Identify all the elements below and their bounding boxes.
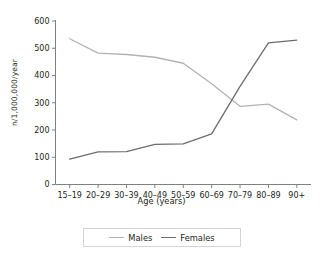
y-tick-label: 400 bbox=[34, 71, 49, 80]
y-tick-label: 300 bbox=[34, 99, 49, 108]
y-tick-label: 100 bbox=[34, 153, 49, 162]
legend-swatch-males bbox=[109, 237, 124, 238]
y-tick-label: 200 bbox=[34, 126, 49, 135]
series-lines bbox=[70, 39, 297, 159]
line-chart-svg: 0100200300400500600 15–1920–2930–3940–49… bbox=[0, 0, 323, 215]
legend-swatch-females bbox=[161, 237, 176, 238]
y-axis-ticks: 0100200300400500600 bbox=[34, 17, 55, 190]
x-axis-title: Age (years) bbox=[0, 196, 323, 206]
y-tick-label: 0 bbox=[44, 180, 49, 189]
legend-label-females: Females bbox=[180, 233, 214, 243]
y-tick-label: 500 bbox=[34, 44, 49, 53]
y-tick-label: 600 bbox=[34, 17, 49, 26]
y-axis-title: n/1,000,000/year bbox=[10, 33, 19, 153]
plot-area: 0100200300400500600 15–1920–2930–3940–49… bbox=[0, 0, 323, 215]
legend-entry-females[interactable]: Females bbox=[161, 233, 214, 243]
legend-label-males: Males bbox=[128, 233, 152, 243]
legend-entry-males[interactable]: Males bbox=[109, 233, 152, 243]
series-line-females bbox=[70, 40, 297, 159]
chart-legend: Males Females bbox=[83, 228, 241, 247]
chart-figure: 0100200300400500600 15–1920–2930–3940–49… bbox=[0, 0, 323, 257]
